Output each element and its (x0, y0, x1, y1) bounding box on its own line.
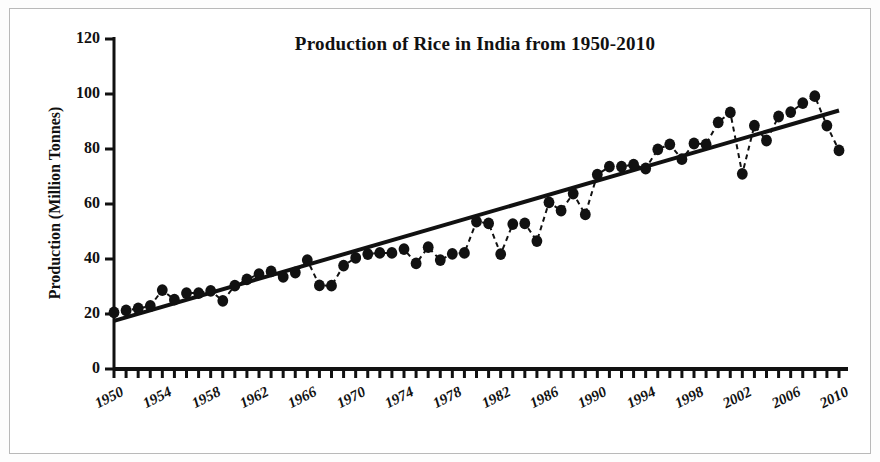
data-point-marker (326, 280, 337, 292)
data-point-marker (580, 209, 591, 221)
data-point-marker (568, 188, 579, 200)
data-point-marker (519, 217, 530, 229)
data-point-marker (809, 90, 820, 102)
data-point-marker (640, 163, 651, 175)
data-point-marker (532, 235, 543, 247)
data-point-marker (314, 280, 325, 292)
figure-frame: Production of Rice in India from 1950-20… (9, 8, 871, 454)
data-point-marker (242, 274, 253, 286)
data-point-marker (604, 161, 615, 173)
data-point-marker (399, 243, 410, 255)
data-point-marker (278, 271, 289, 283)
data-point-marker (266, 266, 277, 278)
data-point-marker (495, 248, 506, 260)
data-point-marker (459, 247, 470, 259)
data-point-marker (374, 247, 385, 259)
data-point-marker (471, 216, 482, 228)
data-point-marker (483, 217, 494, 229)
data-point-marker (121, 305, 132, 317)
trend-line-segment (114, 111, 839, 321)
data-point-marker (145, 300, 156, 312)
axes (105, 37, 848, 378)
data-point-marker (423, 241, 434, 253)
data-point-marker (664, 138, 675, 150)
data-point-marker (133, 303, 144, 315)
series-connector-line (114, 96, 839, 312)
data-point-marker (109, 307, 120, 319)
data-point-marker (822, 120, 833, 132)
data-point-marker (785, 106, 796, 118)
data-point-marker (387, 247, 398, 259)
data-point-marker (592, 169, 603, 181)
data-point-marker (157, 284, 168, 296)
data-point-marker (411, 258, 422, 270)
data-point-marker (834, 145, 845, 157)
data-point-marker (302, 254, 313, 266)
data-point-marker (737, 168, 748, 180)
figure-container: Production of Rice in India from 1950-20… (0, 0, 880, 462)
data-point-marker (616, 161, 627, 173)
data-series (109, 90, 845, 318)
data-point-marker (677, 153, 688, 165)
data-point-marker (229, 280, 240, 292)
data-point-marker (290, 267, 301, 279)
data-point-marker (254, 268, 265, 280)
data-point-marker (701, 138, 712, 150)
data-point-marker (193, 287, 204, 299)
data-point-marker (761, 135, 772, 147)
data-point-marker (725, 107, 736, 119)
data-point-marker (435, 254, 446, 266)
data-point-marker (773, 111, 784, 123)
data-point-marker (689, 138, 700, 150)
data-point-marker (507, 218, 518, 230)
data-point-marker (544, 196, 555, 208)
data-point-marker (169, 294, 180, 306)
data-point-marker (447, 248, 458, 260)
data-point-marker (217, 295, 228, 307)
data-point-marker (350, 252, 361, 264)
data-point-marker (652, 143, 663, 155)
data-point-marker (556, 205, 567, 217)
data-point-marker (205, 285, 216, 297)
data-point-marker (749, 120, 760, 132)
plot-area (10, 9, 872, 455)
data-point-marker (362, 248, 373, 260)
data-point-marker (338, 260, 349, 272)
data-point-marker (713, 116, 724, 128)
data-point-marker (628, 159, 639, 171)
data-point-marker (797, 97, 808, 109)
trend-line (114, 111, 839, 321)
data-point-marker (181, 287, 192, 299)
